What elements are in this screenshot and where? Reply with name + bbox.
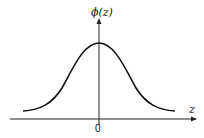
y-axis-label: ϕ(z) [91,6,113,19]
origin-label: 0 [95,123,101,134]
diagram-canvas: ϕ(z) z 0 [0,0,204,138]
x-axis [10,117,197,122]
x-axis-arrow-icon [191,117,197,122]
y-axis [97,18,102,125]
x-axis-label: z [188,103,195,116]
